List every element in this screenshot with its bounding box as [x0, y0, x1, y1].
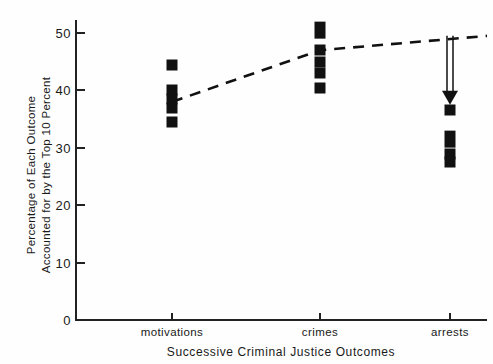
data-point-arrests [445, 157, 456, 168]
data-point-crimes [315, 82, 326, 93]
data-point-crimes [315, 22, 326, 39]
y-axis-title: Percentage of Each Outcome Accounted for… [24, 50, 54, 300]
drop-arrow-icon [442, 36, 458, 105]
plot-area: 01020304050 motivationscrimesarrests Per… [0, 0, 493, 364]
y-tick-label-20: 20 [56, 198, 71, 213]
y-tick-40 [75, 89, 85, 91]
y-axis-title-line2: Accounted for by the Top 10 Percent [39, 50, 54, 300]
y-tick-30 [75, 147, 85, 149]
y-tick-label-40: 40 [56, 83, 71, 98]
data-point-motivations [167, 102, 178, 113]
x-tick-arrests [449, 313, 451, 321]
y-tick-50 [75, 32, 85, 34]
x-tick-label-motivations: motivations [141, 326, 204, 338]
data-point-crimes [315, 45, 326, 56]
x-tick-motivations [171, 313, 173, 321]
data-point-motivations [167, 116, 178, 127]
y-tick-label-50: 50 [56, 26, 71, 41]
data-point-arrests [445, 105, 456, 116]
y-tick-10 [75, 262, 85, 264]
data-point-motivations [167, 59, 178, 70]
data-point-arrests [445, 131, 456, 148]
x-tick-crimes [319, 313, 321, 321]
trend-line-overlay [0, 0, 493, 364]
y-axis-title-line1: Percentage of Each Outcome [24, 50, 39, 300]
x-axis-title: Successive Criminal Justice Outcomes [75, 345, 487, 359]
x-axis-line [75, 319, 487, 321]
y-tick-label-10: 10 [56, 255, 71, 270]
x-tick-label-arrests: arrests [431, 326, 469, 338]
data-point-crimes [315, 68, 326, 79]
data-point-crimes [315, 56, 326, 67]
trend-line [172, 36, 487, 102]
chart-figure: 01020304050 motivationscrimesarrests Per… [0, 0, 493, 364]
y-tick-label-30: 30 [56, 140, 71, 155]
y-tick-label-0: 0 [63, 313, 71, 328]
y-tick-0 [75, 319, 85, 321]
x-tick-label-crimes: crimes [302, 326, 338, 338]
y-axis-line [75, 20, 77, 321]
y-tick-20 [75, 204, 85, 206]
